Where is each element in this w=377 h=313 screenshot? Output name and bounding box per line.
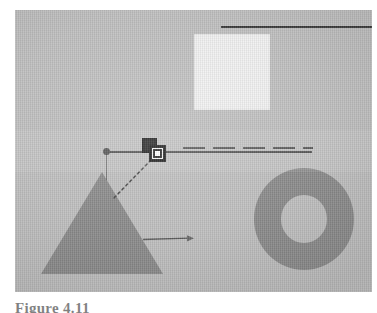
guide-drop-line xyxy=(106,154,107,180)
figure-page: Figure 4.11 xyxy=(0,0,377,313)
shape-square[interactable] xyxy=(194,34,270,110)
guide-horizontal-axis-ghost xyxy=(183,147,313,149)
figure-caption: Figure 4.11 xyxy=(15,301,315,313)
shape-ring[interactable] xyxy=(254,168,354,270)
guide-top-rule xyxy=(221,26,372,28)
copy-front-square-inner-icon xyxy=(153,149,162,158)
duplicate-cursor[interactable] xyxy=(142,138,167,163)
guide-pointer-arrow xyxy=(143,234,195,244)
drawing-canvas[interactable] xyxy=(15,10,372,292)
